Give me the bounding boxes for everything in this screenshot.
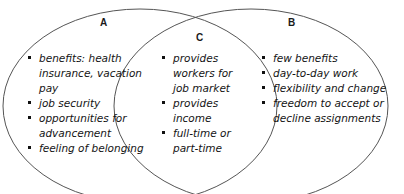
square-bullet-icon [28,146,31,149]
region-label-b: B [288,18,295,28]
list-item-label: day-to-day work [273,67,358,79]
list-item-label: benefits: health insurance, vacation pay [39,52,142,94]
square-bullet-icon [162,101,165,104]
list-item-label: job security [39,97,100,109]
venn-diagram: A C B benefits: health insurance, vacati… [0,0,404,194]
square-bullet-icon [262,101,265,104]
list-item: day-to-day work [262,66,387,81]
list-item: benefits: health insurance, vacation pay [28,51,163,96]
region-c-item-list: provides workers for job market provides… [162,51,244,156]
list-item: flexibility and change [262,81,387,96]
list-item-label: full-time or part-time [173,127,231,154]
region-label-a: A [100,18,107,28]
list-item-label: provides income [173,97,218,124]
square-bullet-icon [162,131,165,134]
square-bullet-icon [262,86,265,89]
list-item: freedom to accept or decline assignments [262,96,387,126]
list-item: job security [28,96,163,111]
list-item: provides income [162,96,244,126]
list-item-label: few benefits [273,52,338,64]
list-item: feeling of belonging [28,141,163,156]
list-item-label: freedom to accept or decline assignments [273,97,384,124]
list-item: opportunities for advancement [28,111,163,141]
list-item: full-time or part-time [162,126,244,156]
list-item-label: provides workers for job market [173,52,232,94]
square-bullet-icon [262,71,265,74]
list-item-label: opportunities for advancement [39,112,127,139]
square-bullet-icon [162,56,165,59]
square-bullet-icon [28,56,31,59]
region-label-c: C [196,33,203,43]
square-bullet-icon [262,56,265,59]
square-bullet-icon [28,116,31,119]
square-bullet-icon [28,101,31,104]
region-b-item-list: few benefits day-to-day work flexibility… [262,51,387,126]
list-item: few benefits [262,51,387,66]
region-a-item-list: benefits: health insurance, vacation pay… [28,51,163,156]
list-item-label: feeling of belonging [39,142,144,154]
list-item-label: flexibility and change [273,82,386,94]
list-item: provides workers for job market [162,51,244,96]
